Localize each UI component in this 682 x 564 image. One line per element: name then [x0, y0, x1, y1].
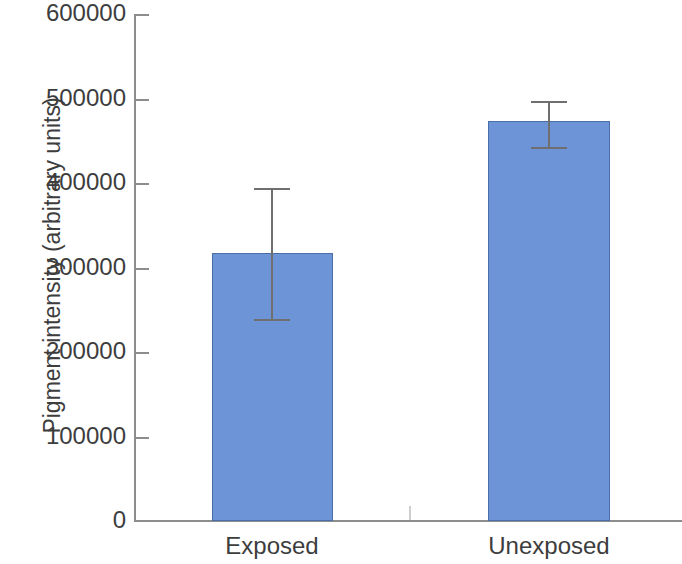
- y-tick-label-200000: 200000: [6, 339, 126, 363]
- error-bar-cap-upper-unexposed: [531, 101, 567, 103]
- error-bar-cap-lower-exposed: [254, 319, 290, 321]
- bar-unexposed: [488, 121, 610, 521]
- y-tick-label-600000: 600000: [6, 1, 126, 25]
- error-bar-cap-lower-unexposed: [531, 147, 567, 149]
- y-tick-label-300000: 300000: [6, 255, 126, 279]
- y-tick-200000: [136, 352, 149, 354]
- error-bar-stem-unexposed: [548, 101, 550, 149]
- y-tick-600000: [136, 14, 149, 16]
- error-bar-stem-exposed: [271, 188, 273, 320]
- error-bar-cap-upper-exposed: [254, 188, 290, 190]
- y-tick-label-0: 0: [6, 508, 126, 532]
- x-axis-label-unexposed: Unexposed: [469, 532, 629, 560]
- x-axis-label-exposed: Exposed: [192, 532, 352, 560]
- y-tick-100000: [136, 437, 149, 439]
- y-tick-400000: [136, 183, 149, 185]
- y-tick-500000: [136, 99, 149, 101]
- x-axis-minor-tick: [409, 506, 411, 520]
- y-tick-label-400000: 400000: [6, 170, 126, 194]
- y-tick-label-100000: 100000: [6, 424, 126, 448]
- bar-chart: Pigment intensity (arbitrary units) 6000…: [0, 0, 682, 564]
- y-tick-300000: [136, 268, 149, 270]
- y-tick-label-500000: 500000: [6, 86, 126, 110]
